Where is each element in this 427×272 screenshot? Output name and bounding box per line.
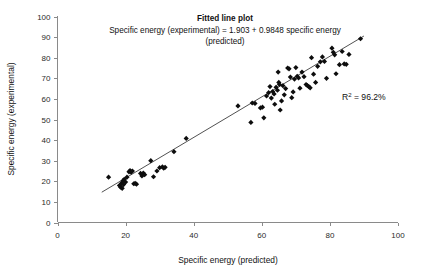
fitted-line-plot-figure: Fitted line plot Specific energy (experi… [0,0,427,272]
y-tick-label: 30 [42,157,51,166]
x-tick-label: 100 [391,231,405,240]
y-axis-title: Specific energy (experimental) [6,62,16,175]
y-tick-label: 20 [42,177,51,186]
y-tick-label: 0 [46,219,51,228]
y-tick-label: 40 [42,136,51,145]
y-tick-label: 50 [42,116,51,125]
x-tick-label: 20 [121,231,130,240]
y-tick-label: 70 [42,74,51,83]
y-tick-label: 10 [42,198,51,207]
y-tick-label: 80 [42,54,51,63]
chart-title: Fitted line plot [197,14,253,23]
chart-canvas: Fitted line plot Specific energy (experi… [0,0,427,272]
x-tick-label: 40 [189,231,198,240]
regression-equation-line1: Specific energy (experimental) = 1.903 +… [109,26,342,35]
x-tick-label: 60 [257,231,266,240]
y-tick-label: 90 [42,33,51,42]
r-squared-value: = 96.2% [352,92,387,102]
x-tick-label: 0 [55,231,60,240]
x-axis-title: Specific energy (predicted) [178,255,278,265]
regression-equation-line2: (predicted) [205,37,244,46]
y-tick-label: 60 [42,95,51,104]
x-tick-label: 80 [325,231,334,240]
y-tick-label: 100 [37,13,51,22]
